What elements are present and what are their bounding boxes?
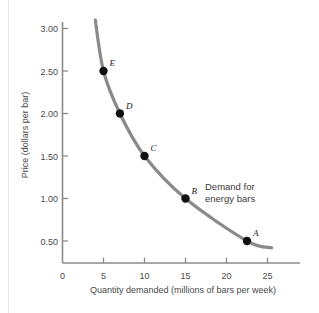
y-tick-label-200: 2.00 [40, 109, 58, 119]
y-tick-label-150: 1.50 [40, 152, 58, 162]
x-tick-label-15: 15 [180, 271, 190, 281]
data-point-label-a: A [252, 228, 259, 238]
demand-annotation: Demand for energy bars [205, 181, 255, 204]
annotation-line-1: Demand for [205, 181, 255, 192]
y-axis-tick-labels: 3.00 2.50 2.00 1.50 1.00 0.50 [40, 24, 58, 247]
demand-curve-figure: 3.00 2.50 2.00 1.50 1.00 0.50 0 5 10 15 … [0, 0, 319, 313]
annotation-line-2: energy bars [205, 193, 255, 204]
y-axis-ticks [63, 29, 69, 242]
demand-curve-chart: 3.00 2.50 2.00 1.50 1.00 0.50 0 5 10 15 … [0, 0, 319, 313]
x-axis-tick-labels: 0 5 10 15 20 25 [60, 271, 273, 281]
data-point-c [140, 152, 148, 160]
data-point-b [181, 194, 189, 202]
data-point-label-b: B [192, 186, 198, 196]
data-point-label-c: C [151, 143, 158, 153]
data-point-group: EDCBA [99, 58, 259, 245]
x-axis-title: Quantity demanded (millions of bars per … [90, 285, 276, 295]
x-tick-label-0: 0 [60, 271, 65, 281]
data-point-d [116, 109, 124, 117]
data-point-a [243, 237, 251, 245]
y-tick-label-050: 0.50 [40, 237, 58, 247]
y-tick-label-250: 2.50 [40, 67, 58, 77]
data-point-label-e: E [109, 58, 116, 68]
x-tick-label-10: 10 [139, 271, 149, 281]
x-tick-label-20: 20 [221, 271, 231, 281]
y-tick-label-300: 3.00 [40, 24, 58, 34]
data-point-label-d: D [125, 101, 133, 111]
x-axis-ticks [104, 258, 268, 264]
y-axis-title: Price (dollars per bar) [20, 92, 30, 179]
demand-curve-line [95, 20, 271, 248]
axes [63, 22, 301, 263]
x-tick-label-25: 25 [262, 271, 272, 281]
y-tick-label-100: 1.00 [40, 194, 58, 204]
data-point-e [99, 67, 107, 75]
x-tick-label-5: 5 [101, 271, 106, 281]
